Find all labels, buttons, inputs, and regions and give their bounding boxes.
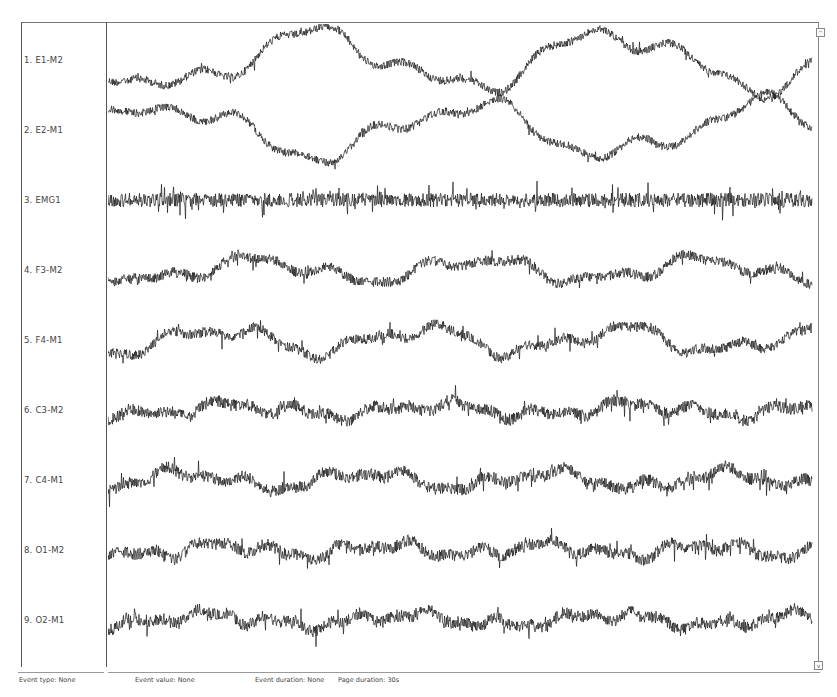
trace-7 <box>108 457 812 507</box>
scroll-down-button[interactable]: v <box>814 661 823 670</box>
trace-6 <box>108 385 812 426</box>
channel-label-6[interactable]: 6. C3-M2 <box>24 405 64 415</box>
status-page-duration: Page duration: 30s <box>338 676 399 684</box>
scroll-up-button[interactable]: ^ <box>816 28 825 37</box>
status-divider-right <box>108 672 820 673</box>
channel-label-1[interactable]: 1. E1-M2 <box>24 55 63 65</box>
channel-label-panel: 1. E1-M2 2. E2-M1 3. EMG1 4. F3-M2 5. F4… <box>21 22 107 667</box>
trace-8 <box>108 528 812 568</box>
channel-label-9[interactable]: 9. O2-M1 <box>24 615 64 625</box>
channel-label-3[interactable]: 3. EMG1 <box>24 195 61 205</box>
trace-3 <box>108 181 812 220</box>
chevron-down-icon: v <box>817 662 821 669</box>
channel-label-7[interactable]: 7. C4-M1 <box>24 475 64 485</box>
channel-label-5[interactable]: 5. F4-M1 <box>24 335 63 345</box>
trace-2 <box>108 89 812 169</box>
chevron-up-icon: ^ <box>818 29 823 36</box>
channel-label-2[interactable]: 2. E2-M1 <box>24 125 63 135</box>
trace-4 <box>108 250 812 289</box>
channel-label-8[interactable]: 8. O1-M2 <box>24 545 64 555</box>
trace-9 <box>108 603 812 646</box>
channel-label-4[interactable]: 4. F3-M2 <box>24 265 63 275</box>
status-event-value: Event value: None <box>135 676 195 684</box>
trace-5 <box>108 320 812 364</box>
eeg-traces <box>108 24 814 664</box>
status-event-duration: Event duration: None <box>255 676 324 684</box>
status-divider-left <box>18 672 104 673</box>
trace-1 <box>108 24 812 103</box>
status-event-type: Event type: None <box>19 676 75 684</box>
